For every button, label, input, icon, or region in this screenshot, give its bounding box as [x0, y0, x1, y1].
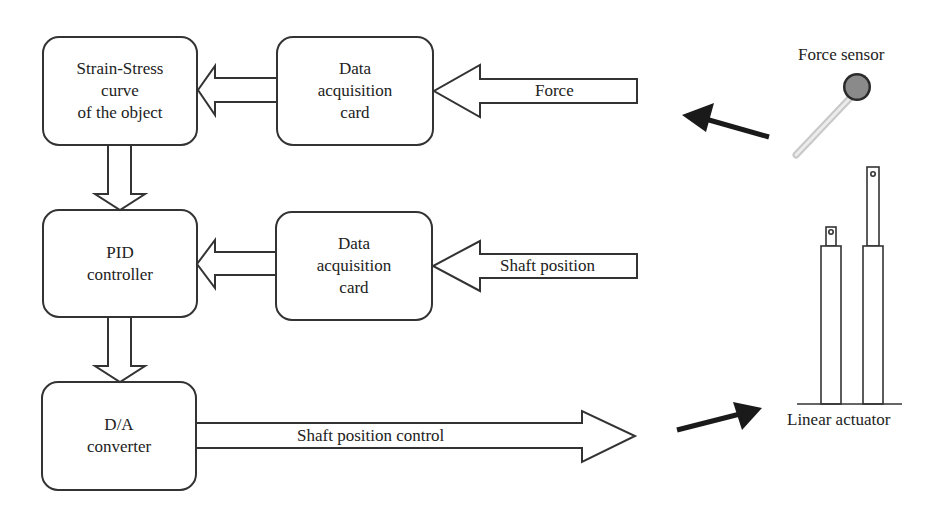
da-converter-label: D/A converter	[42, 414, 196, 458]
label-line: Data	[277, 58, 433, 80]
label-line: D/A	[42, 414, 196, 436]
label-line: PID	[43, 242, 197, 264]
label-line: Data	[276, 233, 432, 255]
label-line: converter	[42, 436, 196, 458]
force-sensor-icon	[796, 73, 871, 155]
shaft-position-control-signal-label: Shaft position control	[297, 426, 444, 446]
label-line: controller	[43, 264, 197, 286]
force-signal-label: Force	[535, 81, 574, 101]
daq-position-label: Data acquisition card	[276, 233, 432, 299]
label-line: card	[276, 277, 432, 299]
label-line: acquisition	[277, 80, 433, 102]
arrow-pid-to-da	[95, 317, 145, 382]
daq-force-label: Data acquisition card	[277, 58, 433, 124]
arrow-daq-to-pid	[197, 240, 276, 288]
label-line: acquisition	[276, 255, 432, 277]
pointer-arrow-to-actuator	[677, 402, 762, 430]
force-sensor-label: Force sensor	[798, 45, 884, 65]
pid-label: PID controller	[43, 242, 197, 286]
linear-actuator-label: Linear actuator	[787, 410, 890, 430]
strain-stress-label: Strain-Stress curve of the object	[43, 58, 197, 124]
label-line: Strain-Stress	[43, 58, 197, 80]
label-line: curve	[43, 80, 197, 102]
shaft-position-signal-label: Shaft position	[500, 256, 595, 276]
arrow-strain-to-pid	[95, 145, 145, 210]
linear-actuator-icon	[797, 167, 902, 404]
label-line: of the object	[43, 102, 197, 124]
arrow-daq-to-strain	[198, 66, 277, 115]
pointer-arrow-from-sensor	[682, 103, 769, 137]
label-line: card	[277, 102, 433, 124]
